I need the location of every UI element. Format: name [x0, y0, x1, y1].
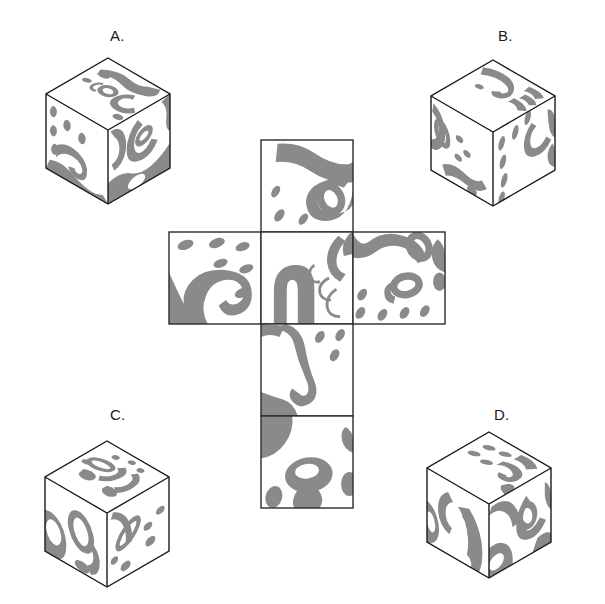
net-face-bottom [261, 416, 358, 510]
net-face-top [261, 140, 353, 232]
answer-cube-b[interactable] [431, 60, 555, 207]
cube-net-cross [169, 140, 446, 510]
net-face-left [169, 232, 261, 324]
net-face-right [353, 232, 446, 324]
net-face-below-center [261, 324, 353, 416]
answer-cube-d[interactable] [425, 432, 551, 578]
puzzle-canvas: A. B. C. D. [0, 0, 605, 604]
answer-cube-a[interactable] [46, 58, 170, 204]
net-face-center [261, 232, 353, 324]
answer-cube-c[interactable] [44, 441, 169, 587]
